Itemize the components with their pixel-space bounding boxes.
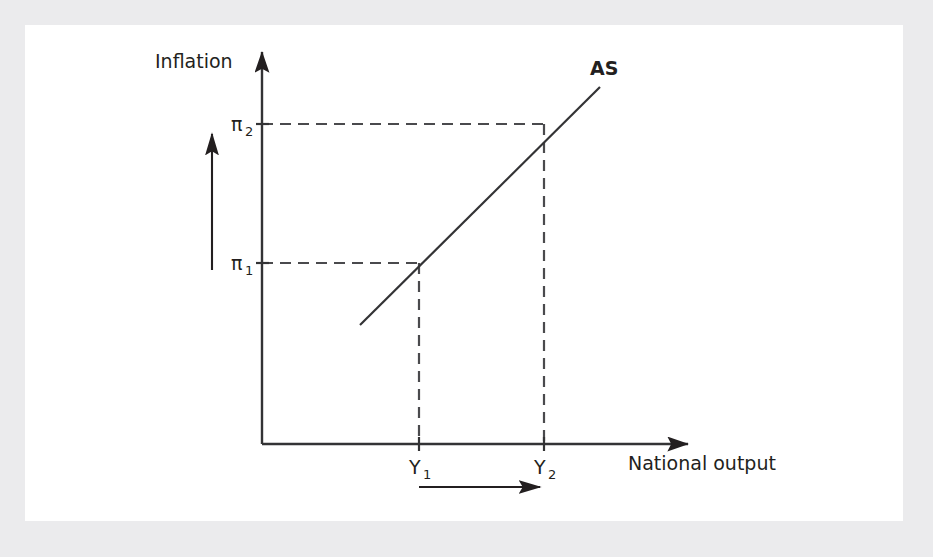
pi1-symbol: π [231,252,242,274]
tick-marks-group [256,124,544,451]
y2-subscript: 2 [548,467,556,482]
pi1-axis-label: π 1 [231,252,253,278]
pi1-subscript: 1 [245,263,253,278]
y1-symbol: Y [408,456,421,478]
y-axis-title: Inflation [155,50,233,72]
figure-frame: Inflation National output AS π 2 π 1 [0,0,933,557]
as-diagram: Inflation National output AS π 2 π 1 [0,0,933,557]
pi2-symbol: π [231,113,242,135]
pi2-subscript: 2 [245,124,253,139]
y1-axis-label: Y 1 [408,456,431,482]
pi2-axis-label: π 2 [231,113,253,139]
x-axis-title: National output [628,452,776,474]
axes-group [262,52,688,444]
y2-axis-label: Y 2 [533,456,556,482]
as-curve-label: AS [590,57,618,79]
y2-symbol: Y [533,456,546,478]
y1-subscript: 1 [423,467,431,482]
guide-lines-group [262,124,544,444]
as-curve-line [360,87,600,325]
